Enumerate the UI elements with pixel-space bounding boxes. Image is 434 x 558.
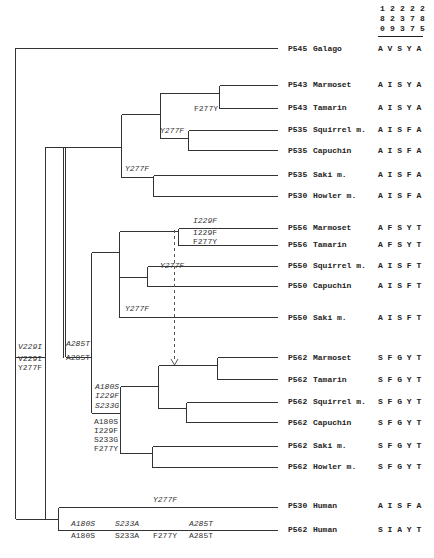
taxon-pigment-id: P556 [288,240,307,249]
taxon-pigment-id: P550 [288,261,307,270]
taxon-name: Capuchin [313,146,351,155]
taxon-pigment-id: P530 [288,191,307,200]
taxon-sequence: A I S F A [378,146,421,155]
inferred-mutation-label: A285T [66,339,90,348]
taxon-name: Tamarin [313,103,347,112]
taxon-name: Capuchin [313,281,351,290]
taxon-name: Marmoset [313,80,351,89]
mutation-label: F277Y [194,104,218,113]
taxon-pigment-id: P562 [288,418,307,427]
taxon-pigment-id: P535 [288,170,307,179]
taxon-sequence: S F G Y T [378,375,421,384]
column-position-285: 285 [418,4,427,34]
column-position-180: 180 [378,4,387,34]
taxon-sequence: A I S F T [378,281,421,290]
taxon-sequence: A F S Y T [378,223,421,232]
taxon-sequence: A I S F A [378,125,421,134]
taxon-pigment-id: P543 [288,103,307,112]
mutation-label: A180S [71,531,95,540]
taxon-name: Galago [313,44,342,53]
mutation-label: A285T [189,531,213,540]
column-position-233: 233 [398,4,407,34]
taxon-name: Marmoset [313,353,351,362]
taxon-sequence: A I S F A [378,191,421,200]
taxon-name: Human [313,501,337,510]
mutation-label: I229F [193,228,217,237]
taxon-sequence: S F G Y T [378,441,421,450]
mutation-label: S233A [115,531,139,540]
taxon-pigment-id: P562 [288,441,307,450]
taxon-name: Tamarin [313,375,347,384]
taxon-sequence: S F G Y T [378,418,421,427]
mutation-label: F277Y [193,237,217,246]
phylogenetic-tree [0,0,434,558]
taxon-sequence: S F G Y T [378,353,421,362]
mutation-label: V229I [18,354,42,363]
mutation-label: Y277F [18,363,42,372]
taxon-sequence: S F G Y T [378,397,421,406]
taxon-pigment-id: P562 [288,525,307,534]
taxon-name: Saki m. [313,170,347,179]
taxon-name: Squirrel m. [313,261,366,270]
taxon-name: Marmoset [313,223,351,232]
inferred-mutation-label: Y277F [125,304,149,313]
taxon-pigment-id: P562 [288,375,307,384]
taxon-name: Human [313,525,337,534]
taxon-pigment-id: P545 [288,44,307,53]
inferred-mutation-label: Y277F [160,126,184,135]
taxon-pigment-id: P556 [288,223,307,232]
inferred-mutation-label: Y277F [125,164,149,173]
mutation-label: F277Y [94,444,118,453]
taxon-name: Howler m. [313,191,356,200]
mutation-label: F277Y [153,531,177,540]
taxon-pigment-id: P550 [288,313,307,322]
column-position-277: 277 [408,4,417,34]
taxon-name: Squirrel m. [313,397,366,406]
mutation-label: A285T [66,353,90,362]
inferred-mutation-label: I229F [193,216,217,225]
inferred-mutation-label: I229F [95,391,119,400]
taxon-pigment-id: P530 [288,501,307,510]
inferred-mutation-label: S233A [115,519,139,528]
taxon-sequence: A I S F A [378,501,421,510]
taxon-name: Howler m. [313,462,356,471]
taxon-pigment-id: P562 [288,462,307,471]
taxon-name: Saki m. [313,313,347,322]
taxon-sequence: A I S Y A [378,103,421,112]
column-position-229: 229 [388,4,397,34]
taxon-sequence: A V S Y A [378,44,421,53]
taxon-sequence: A I S F T [378,313,421,322]
inferred-mutation-label: A285T [189,519,213,528]
inferred-mutation-label: Y277F [160,261,184,270]
arrow-head-icon [171,359,178,365]
mutation-label: A180S [94,417,118,426]
taxon-pigment-id: P535 [288,125,307,134]
taxon-sequence: A I S Y A [378,80,421,89]
inferred-mutation-label: Y277F [153,495,177,504]
taxon-sequence: A I S F T [378,261,421,270]
mutation-label: I229F [94,426,118,435]
inferred-mutation-label: V229I [18,342,42,351]
taxon-sequence: S F G Y T [378,462,421,471]
taxon-pigment-id: P562 [288,397,307,406]
inferred-mutation-label: A180S [71,519,95,528]
taxon-pigment-id: P535 [288,146,307,155]
taxon-pigment-id: P543 [288,80,307,89]
taxon-name: Capuchin [313,418,351,427]
taxon-sequence: A F S Y T [378,240,421,249]
taxon-pigment-id: P550 [288,281,307,290]
inferred-mutation-label: A180S [95,382,119,391]
inferred-mutation-label: S233G [95,401,119,410]
taxon-name: Saki m. [313,441,347,450]
taxon-sequence: A I S F A [378,170,421,179]
taxon-sequence: S I A Y T [378,525,421,534]
taxon-name: Squirrel m. [313,125,366,134]
mutation-label: S233G [94,435,118,444]
taxon-pigment-id: P562 [288,353,307,362]
taxon-name: Tamarin [313,240,347,249]
